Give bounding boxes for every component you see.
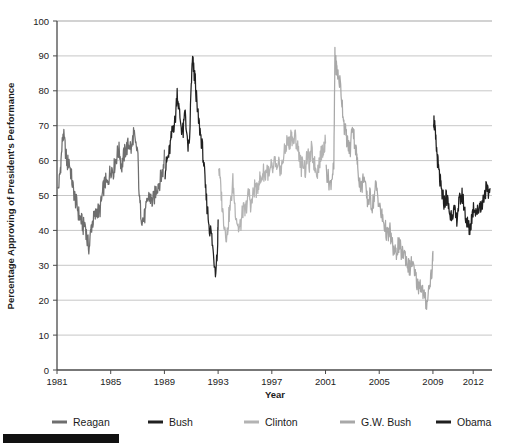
y-tick-label-40: 40 xyxy=(38,225,49,236)
x-axis-tick-labels: 198119851989199319972001200520092012 xyxy=(46,370,483,387)
x-tick-label-2012: 2012 xyxy=(463,376,484,387)
series-line-obama xyxy=(434,116,490,235)
legend-label-clinton: Clinton xyxy=(265,416,298,428)
x-tick-label-1997: 1997 xyxy=(261,376,282,387)
x-tick-label-2005: 2005 xyxy=(369,376,390,387)
y-tick-label-30: 30 xyxy=(38,260,49,271)
x-tick-label-1989: 1989 xyxy=(154,376,175,387)
y-tick-label-90: 90 xyxy=(38,50,49,61)
y-axis-tick-labels: 0102030405060708090100 xyxy=(33,16,57,376)
legend-label-obama: Obama xyxy=(457,416,492,428)
y-tick-label-20: 20 xyxy=(38,295,49,306)
chart-plot-svg: 198119851989199319972001200520092012 010… xyxy=(0,0,505,446)
approval-rating-chart: 198119851989199319972001200520092012 010… xyxy=(0,0,505,446)
legend-label-g-w-bush: G.W. Bush xyxy=(361,416,411,428)
legend-label-bush: Bush xyxy=(169,416,193,428)
series-line-clinton xyxy=(219,130,326,242)
y-tick-label-0: 0 xyxy=(44,365,49,376)
x-tick-label-1993: 1993 xyxy=(208,376,229,387)
x-axis-title: Year xyxy=(265,389,285,400)
series-line-bush xyxy=(165,56,218,277)
x-tick-label-2009: 2009 xyxy=(422,376,443,387)
x-tick-label-2001: 2001 xyxy=(315,376,336,387)
y-tick-label-80: 80 xyxy=(38,85,49,96)
x-tick-label-1985: 1985 xyxy=(100,376,121,387)
page-footer-bar xyxy=(3,434,119,443)
series-line-reagan xyxy=(58,128,165,254)
y-tick-label-60: 60 xyxy=(38,155,49,166)
series-line-g-w-bush xyxy=(326,47,433,309)
y-tick-label-70: 70 xyxy=(38,120,49,131)
y-tick-label-50: 50 xyxy=(38,190,49,201)
legend-label-reagan: Reagan xyxy=(73,416,110,428)
gridlines-group xyxy=(57,21,492,335)
x-tick-label-1981: 1981 xyxy=(46,376,67,387)
y-tick-label-10: 10 xyxy=(38,330,49,341)
y-tick-label-100: 100 xyxy=(33,16,49,27)
data-series-group xyxy=(58,47,490,309)
y-axis-title: Percentage Approving of President's Perf… xyxy=(5,83,16,310)
chart-legend: ReaganBushClintonG.W. BushObama xyxy=(52,416,492,428)
